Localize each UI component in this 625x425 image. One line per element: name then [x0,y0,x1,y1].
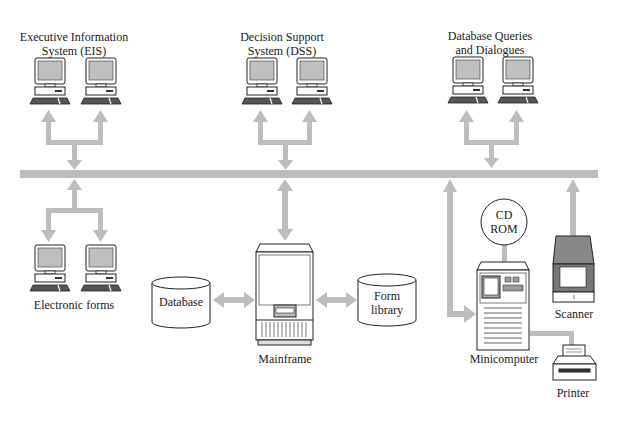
printer-icon [553,345,596,380]
eis-label: Executive Information System (EIS) [18,30,130,58]
scanner-label: Scanner [546,307,602,321]
form-library-label-line2: library [358,303,416,317]
eis-label-line1: Executive Information [18,30,130,44]
printer-label: Printer [548,386,598,400]
forms-workstations [30,245,121,291]
dss-label-line2: System (DSS) [232,44,332,58]
minicomputer-icon [477,262,529,350]
mainframe-icon [256,244,313,345]
computer-icon [81,58,121,104]
computer-icon [30,58,70,104]
scanner-icon [553,236,594,302]
dss-workstations [242,58,332,104]
eis-label-line2: System (EIS) [18,44,130,58]
computer-icon [292,58,332,104]
dbq-workstations [448,57,538,103]
network-diagram: Executive Information System (EIS) Decis… [0,0,625,425]
form-library-label-line1: Form [358,289,416,303]
cdrom-label: CD ROM [484,208,524,236]
computer-icon [498,57,538,103]
computer-icon [30,245,70,291]
computer-icon [81,245,121,291]
mainframe-label: Mainframe [250,352,320,366]
electronic-forms-label: Electronic forms [24,298,124,312]
cdrom-label-line2: ROM [484,222,524,236]
database-label: Database [152,295,210,309]
dbq-label-line2: and Dialogues [440,43,540,57]
cdrom-label-line1: CD [484,208,524,222]
dss-label: Decision Support System (DSS) [232,30,332,58]
dbq-label-line1: Database Queries [440,29,540,43]
network-bus [20,170,598,178]
dss-label-line1: Decision Support [232,30,332,44]
dbq-label: Database Queries and Dialogues [440,29,540,57]
form-library-label: Form library [358,289,416,317]
computer-icon [448,57,488,103]
computer-icon [242,58,282,104]
minicomputer-label: Minicomputer [462,352,546,366]
eis-workstations [30,58,121,104]
